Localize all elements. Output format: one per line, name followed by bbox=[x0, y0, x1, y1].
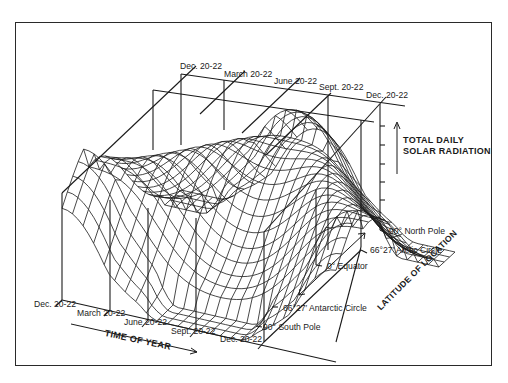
back-time-label-sept: Sept. 20-22 bbox=[319, 83, 363, 92]
front-time-label-march: March 20-22 bbox=[77, 309, 125, 318]
radiation-surface-mesh bbox=[62, 110, 455, 341]
arrow-up-icon bbox=[394, 122, 400, 174]
front-time-label-sept: Sept. 20-22 bbox=[171, 327, 215, 336]
front-time-label-dec: Dec. 20-22 bbox=[34, 300, 76, 309]
front-time-label-dec-end: Dec. 20-22 bbox=[220, 335, 262, 344]
latitude-label-south-pole: 90° South Pole bbox=[263, 323, 320, 332]
latitude-label-equator: 0° Equator bbox=[327, 262, 368, 271]
z-axis-title-line1: TOTAL DAILY bbox=[403, 135, 464, 145]
solar-radiation-3d-diagram bbox=[0, 0, 508, 383]
back-time-label-dec: Dec. 20-22 bbox=[180, 62, 222, 71]
latitude-label-north-pole: 90° North Pole bbox=[389, 227, 445, 236]
latitude-label-antarctic-circle: 66°27′ Antarctic Circle bbox=[283, 304, 367, 313]
front-time-label-june: June 20-22 bbox=[124, 318, 167, 327]
z-axis-title-line2: SOLAR RADIATION bbox=[403, 146, 491, 156]
back-time-label-march: March 20-22 bbox=[224, 70, 272, 79]
back-time-label-dec-end: Dec. 20-22 bbox=[366, 91, 408, 100]
back-time-label-june: June 20-22 bbox=[274, 77, 317, 86]
